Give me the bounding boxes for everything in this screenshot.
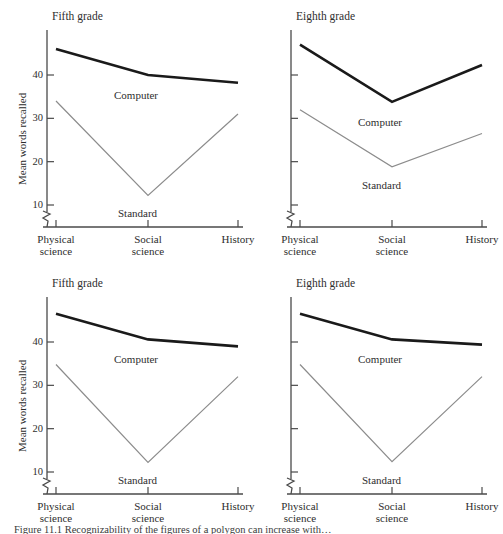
y-tick-label: 20 [19,423,43,435]
x-tick-label: History [447,233,503,245]
x-tick-label: Socialscience [357,233,427,257]
chart-panel-bottom-right: Eighth grade PhysicalscienceSocialscienc… [244,267,488,534]
chart-svg-bottom-left [0,267,244,534]
series-annotation-standard: Standard [362,474,401,486]
x-tick-label: Physicalscience [21,500,91,524]
series-annotation-computer: Computer [114,353,158,365]
y-axis-title: Mean words recalled [16,360,28,452]
series-annotation-standard: Standard [362,179,401,191]
series-line-computer [300,45,482,102]
chart-panel-bottom-left: Fifth grade Mean words recalled 10203040… [0,267,244,534]
series-annotation-computer: Computer [358,116,402,128]
x-tick-label: Physicalscience [265,500,335,524]
series-annotation-standard: Standard [118,474,157,486]
panel-title: Fifth grade [52,277,103,289]
x-tick-label: Socialscience [113,500,183,524]
series-line-standard [56,365,238,463]
y-tick-label: 30 [19,112,43,124]
y-axis-break-icon [287,478,294,494]
y-tick-label: 40 [19,336,43,348]
x-tick-label: Socialscience [113,233,183,257]
series-annotation-computer: Computer [114,89,158,101]
y-axis-break-icon [43,211,50,227]
series-annotation-computer: Computer [358,353,402,365]
y-tick-label: 40 [19,69,43,81]
y-axis-break-icon [43,478,50,494]
figure-caption: Figure 11.1 Recognizability of the figur… [14,524,476,534]
x-tick-label: Physicalscience [265,233,335,257]
panel-title: Fifth grade [52,10,103,22]
series-line-computer [300,314,482,345]
y-tick-label: 30 [19,379,43,391]
series-line-computer [56,314,238,347]
y-axis-break-icon [287,211,294,227]
series-line-standard [56,101,238,195]
x-tick-label: Socialscience [357,500,427,524]
y-tick-label: 10 [19,466,43,478]
x-tick-label: Physicalscience [21,233,91,257]
series-line-computer [56,49,238,83]
y-tick-label: 10 [19,199,43,211]
chart-svg-top-right [244,0,488,267]
panel-title: Eighth grade [296,277,355,289]
series-line-standard [300,365,482,462]
chart-panel-top-left: Fifth grade Mean words recalled 10203040… [0,0,244,267]
y-axis-title: Mean words recalled [16,93,28,185]
y-tick-label: 20 [19,156,43,168]
chart-svg-bottom-right [244,267,488,534]
x-tick-label: History [447,500,503,512]
chart-svg-top-left [0,0,244,267]
panel-title: Eighth grade [296,10,355,22]
chart-panel-top-right: Eighth grade PhysicalscienceSocialscienc… [244,0,488,267]
series-annotation-standard: Standard [118,207,157,219]
